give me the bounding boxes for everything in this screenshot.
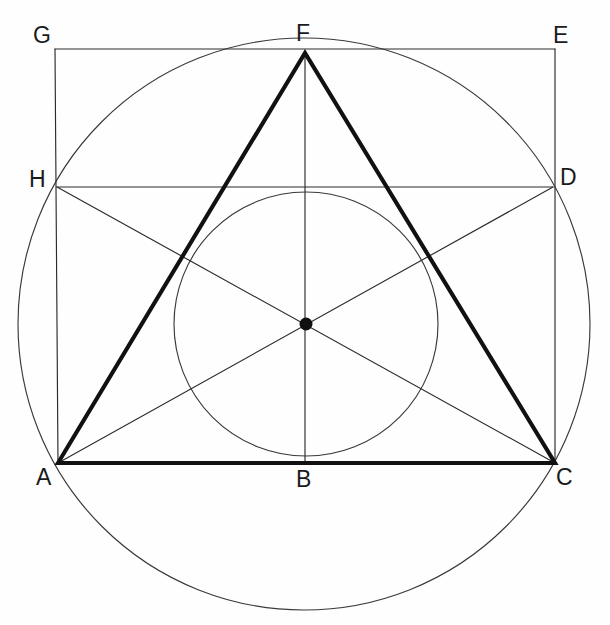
vertex-label-A: A	[36, 466, 51, 489]
geometry-figure: G F E H D A B C	[0, 0, 610, 625]
vertex-label-D: D	[560, 166, 577, 189]
segment-G-A	[55, 49, 58, 463]
vertex-label-H: H	[29, 168, 46, 191]
vertex-label-E: E	[553, 24, 568, 47]
triangle-AFC	[58, 53, 555, 463]
vertex-label-F: F	[296, 22, 310, 45]
vertex-label-G: G	[33, 24, 51, 47]
center-point-dot	[300, 318, 313, 331]
vertex-label-B: B	[296, 468, 311, 491]
vertex-label-C: C	[556, 466, 573, 489]
figure-canvas	[0, 0, 610, 625]
